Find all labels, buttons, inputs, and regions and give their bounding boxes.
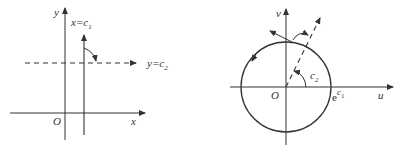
x-axis-label: x bbox=[130, 115, 136, 127]
vertical-line-label: x=c1 bbox=[70, 16, 92, 31]
right-panel: v u O c2 ec1 bbox=[230, 7, 393, 145]
horizontal-line-label: y=c2 bbox=[146, 57, 168, 72]
rotation-arrow-icon bbox=[293, 33, 308, 40]
rotation-arrow-icon bbox=[84, 48, 96, 61]
origin-label: O bbox=[53, 115, 61, 127]
u-axis-label: u bbox=[378, 89, 384, 101]
radius-label: ec1 bbox=[332, 87, 345, 103]
angle-arc bbox=[294, 71, 306, 87]
y-axis-label: y bbox=[53, 6, 59, 18]
v-axis-label: v bbox=[276, 7, 281, 19]
origin-label: O bbox=[271, 89, 279, 101]
angle-label: c2 bbox=[310, 69, 319, 84]
diagram-canvas: y x O x=c1 y=c2 v u O c2 ec1 bbox=[0, 0, 395, 153]
tangent-arrow bbox=[270, 31, 292, 42]
left-panel: y x O x=c1 y=c2 bbox=[10, 6, 168, 140]
